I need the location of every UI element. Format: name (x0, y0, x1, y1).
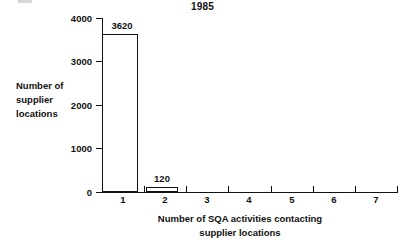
x-axis-title-line-2: supplier locations (75, 226, 405, 240)
x-axis-label-1: 1 (110, 195, 136, 205)
chart-title: 1985 (0, 1, 405, 12)
y-axis-label-3000: 3000 (32, 57, 92, 67)
y-axis-title-line-1: Number of (16, 79, 96, 93)
chart-figure: 1985 0 1000 2000 3000 4000 1 2 3 4 5 6 7… (0, 0, 405, 244)
bar-value-1: 3620 (102, 21, 142, 31)
x-axis-tick-b6 (355, 186, 356, 192)
x-axis-label-7: 7 (363, 195, 389, 205)
y-axis-title-line-2: supplier (16, 93, 96, 107)
x-axis-title: Number of SQA activities contacting supp… (75, 212, 405, 240)
bar-category-1 (102, 34, 138, 192)
bar-category-2 (146, 187, 178, 192)
x-axis-tick-b7 (397, 186, 398, 192)
x-axis-tick-b5 (313, 186, 314, 192)
y-axis-title-line-3: locations (16, 107, 96, 121)
y-axis-label-1000: 1000 (32, 144, 92, 154)
y-axis-label-4000: 4000 (32, 14, 92, 24)
x-axis-tick-b1 (144, 186, 145, 192)
x-axis-label-5: 5 (279, 195, 305, 205)
x-axis-tick-b2 (186, 186, 187, 192)
x-axis-label-2: 2 (152, 195, 178, 205)
x-axis-label-6: 6 (321, 195, 347, 205)
y-axis-label-0: 0 (32, 188, 92, 198)
bar-value-2: 120 (144, 174, 180, 184)
y-axis-tick-4000 (96, 18, 102, 19)
x-axis-label-3: 3 (194, 195, 220, 205)
y-axis-tick-0 (96, 192, 102, 193)
y-axis-title: Number of supplier locations (16, 79, 96, 120)
x-axis-label-4: 4 (236, 195, 262, 205)
x-axis-tick-b3 (228, 186, 229, 192)
x-axis-line (102, 192, 398, 193)
x-axis-title-line-1: Number of SQA activities contacting (75, 212, 405, 226)
x-axis-tick-b4 (271, 186, 272, 192)
